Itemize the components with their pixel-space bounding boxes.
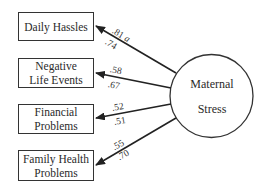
arrow-financial-problems [96, 104, 171, 118]
indicator-label: Problems [34, 166, 77, 180]
arrow-family-health-problems [96, 118, 176, 165]
indicator-financial-problems: Financial Problems [18, 104, 94, 134]
arrow-daily-hassles [96, 26, 176, 73]
coef-negative-top: .58 [109, 64, 123, 76]
latent-label-line2: Stress [170, 102, 254, 117]
coef-negative-bottom: .67 [107, 79, 121, 91]
indicator-family-health-problems: Family Health Problems [18, 150, 94, 181]
indicator-label: Negative [35, 59, 77, 73]
indicator-label: Life Events [29, 73, 82, 87]
latent-label-line1: Maternal [170, 77, 254, 92]
coef-financial-bottom: .51 [113, 115, 126, 127]
coef-financial-top: .52 [111, 101, 124, 113]
maternal-stress-circle [170, 55, 253, 138]
indicator-label: Problems [34, 119, 77, 133]
indicator-label: Daily Hassles [24, 20, 88, 34]
indicator-daily-hassles: Daily Hassles [18, 12, 94, 41]
indicator-label: Family Health [23, 152, 89, 166]
indicator-negative-life-events: Negative Life Events [18, 58, 94, 88]
indicator-label: Financial [35, 105, 78, 119]
